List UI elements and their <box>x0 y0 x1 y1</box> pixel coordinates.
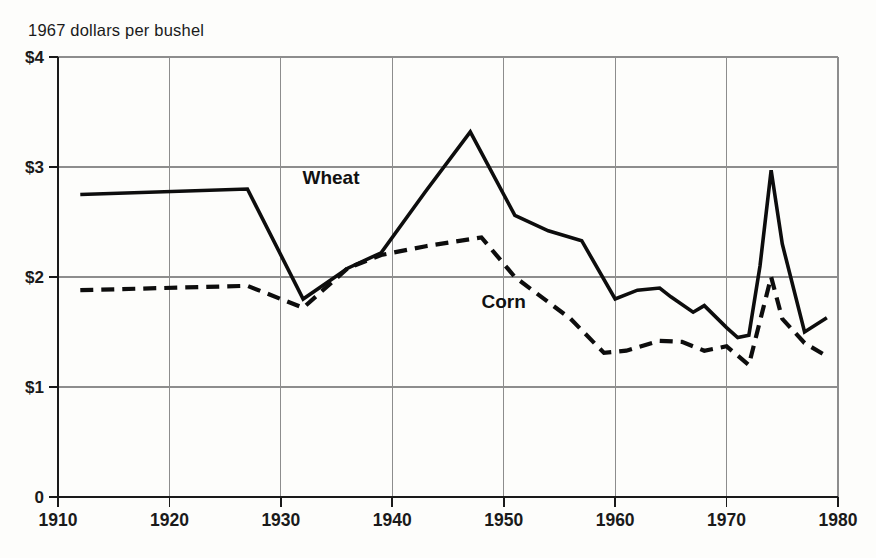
chart-container: 1967 dollars per bushel 0$1$2$3$4 191019… <box>0 0 876 558</box>
y-axis-tick-label: $4 <box>25 48 44 67</box>
y-axis-tick-label: $1 <box>25 378 44 397</box>
series-line-corn <box>80 237 827 365</box>
series-annotations: WheatCorn <box>303 167 526 312</box>
x-axis-tick-label: 1950 <box>484 510 523 530</box>
x-axis-labels: 19101920193019401950196019701980 <box>39 510 858 530</box>
y-axis-tick-label: $3 <box>25 158 44 177</box>
x-axis-tick-label: 1940 <box>373 510 412 530</box>
y-axis-tick-label: 0 <box>35 488 44 507</box>
gridlines <box>58 57 838 497</box>
x-axis-tick-label: 1980 <box>819 510 858 530</box>
x-axis-tick-label: 1920 <box>150 510 189 530</box>
tick-marks <box>49 57 838 507</box>
series-label-wheat: Wheat <box>303 167 361 188</box>
x-axis-tick-label: 1930 <box>261 510 300 530</box>
x-axis-tick-label: 1960 <box>596 510 635 530</box>
y-axis-labels: 0$1$2$3$4 <box>25 48 44 507</box>
y-axis-tick-label: $2 <box>25 268 44 287</box>
x-axis-tick-label: 1970 <box>707 510 746 530</box>
series-label-corn: Corn <box>482 291 526 312</box>
x-axis-tick-label: 1910 <box>39 510 78 530</box>
line-chart-svg: 0$1$2$3$4 191019201930194019501960197019… <box>0 0 876 558</box>
series-line-wheat <box>80 132 827 338</box>
